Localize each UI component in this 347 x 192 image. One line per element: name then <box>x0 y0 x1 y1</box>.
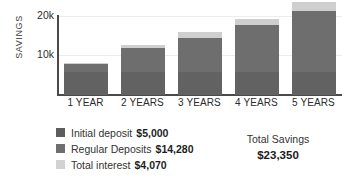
legend-swatch-icon <box>56 144 65 153</box>
bar-5 <box>292 2 336 95</box>
plot-area: SAVINGS 20k 10k 1 YEAR2 YEARS3 YEARS4 YE… <box>0 0 347 120</box>
total-savings-label: Total Savings <box>228 133 328 145</box>
bar-segment-regular-deposits <box>64 64 108 71</box>
total-savings-value: $23,350 <box>228 149 328 161</box>
chart-legend: Initial deposit$5,000Regular Deposits$14… <box>56 125 216 173</box>
legend-item-2: Regular Deposits$14,280 <box>56 141 216 156</box>
legend-label: Initial deposit <box>71 127 132 139</box>
x-label-1: 1 YEAR <box>57 97 114 108</box>
legend-value: $5,000 <box>136 127 168 139</box>
bar-segment-regular-deposits <box>235 25 279 72</box>
bar-segment-initial-deposit <box>121 72 165 95</box>
legend-swatch-icon <box>56 160 65 169</box>
y-tick-10k: 10k <box>37 48 54 60</box>
bar-segment-regular-deposits <box>121 48 165 71</box>
bar-segment-initial-deposit <box>178 72 222 95</box>
bar-1 <box>64 63 108 95</box>
y-tick-20k: 20k <box>37 9 54 21</box>
savings-bar-chart: SAVINGS 20k 10k 1 YEAR2 YEARS3 YEARS4 YE… <box>0 0 347 192</box>
x-label-4: 4 YEARS <box>228 97 285 108</box>
y-axis-tick-labels: 20k 10k <box>18 0 54 100</box>
x-label-2: 2 YEARS <box>114 97 171 108</box>
x-axis-tick-labels: 1 YEAR2 YEARS3 YEARS4 YEARS5 YEARS <box>57 97 342 113</box>
bar-segment-initial-deposit <box>235 72 279 95</box>
legend-label: Total interest <box>71 159 131 171</box>
bar-2 <box>121 45 165 95</box>
bar-3 <box>178 32 222 95</box>
legend-label: Regular Deposits <box>71 143 152 155</box>
bar-segment-initial-deposit <box>64 72 108 95</box>
bar-series-container <box>57 0 342 95</box>
bar-segment-regular-deposits <box>178 38 222 72</box>
x-label-3: 3 YEARS <box>171 97 228 108</box>
legend-value: $14,280 <box>156 143 194 155</box>
legend-item-1: Initial deposit$5,000 <box>56 125 216 140</box>
legend-swatch-icon <box>56 128 65 137</box>
bar-segment-initial-deposit <box>292 72 336 95</box>
bar-segment-interest <box>292 2 336 11</box>
legend-value: $4,070 <box>135 159 167 171</box>
bar-4 <box>235 19 279 95</box>
total-savings-box: Total Savings $23,350 <box>228 133 328 161</box>
legend-item-3: Total interest$4,070 <box>56 157 216 172</box>
bar-segment-regular-deposits <box>292 11 336 72</box>
x-label-5: 5 YEARS <box>285 97 342 108</box>
